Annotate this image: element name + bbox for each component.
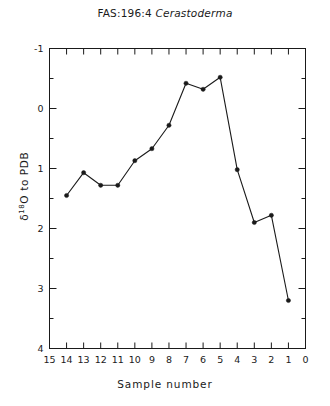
data-line-series [67,77,289,300]
data-point-marker [286,298,290,302]
x-tick-label: 3 [251,354,257,365]
x-axis-label: Sample number [0,378,330,390]
y-tick-label: 3 [37,283,43,294]
y-axis-ticks [50,49,306,349]
x-tick-label: 9 [149,354,155,365]
x-tick-label: 15 [43,354,55,365]
y-axis-label: δ18O to PDB [18,116,31,256]
x-tick-label: 11 [112,354,124,365]
data-point-marker [201,87,205,91]
data-point-markers [64,75,290,302]
data-point-marker [184,81,188,85]
plot-area: 1514131211109876543210 -101234 [0,0,330,406]
data-point-marker [82,171,86,175]
data-point-marker [252,220,256,224]
x-tick-label: 5 [217,354,223,365]
figure-container: FAS:196:4 Cerastoderma 15141312111098765… [0,0,330,406]
data-point-marker [116,183,120,187]
data-point-marker [99,183,103,187]
y-tick-label: -1 [34,43,43,54]
x-tick-label: 4 [234,354,240,365]
data-point-marker [150,147,154,151]
axes-frame [50,49,306,349]
x-axis-ticks [50,49,306,349]
data-point-marker [218,75,222,79]
y-axis-label-isotope: 18 [18,204,26,214]
data-point-marker [235,168,239,172]
x-tick-label: 2 [268,354,274,365]
x-tick-label: 8 [166,354,172,365]
y-tick-label: 4 [37,343,43,354]
y-tick-label: 2 [37,223,43,234]
x-axis-tick-labels: 1514131211109876543210 [43,354,308,365]
y-axis-label-rest: O to PDB [18,152,30,204]
x-tick-label: 10 [129,354,141,365]
y-tick-label: 1 [37,163,43,174]
x-tick-label: 6 [200,354,206,365]
data-point-marker [133,159,137,163]
y-axis-label-delta: δ [18,214,30,221]
y-axis-tick-labels: -101234 [34,43,43,354]
x-tick-label: 0 [302,354,308,365]
x-tick-label: 14 [61,354,73,365]
x-tick-label: 13 [78,354,90,365]
x-tick-label: 7 [183,354,189,365]
data-point-marker [167,123,171,127]
data-point-marker [269,213,273,217]
data-point-marker [64,193,68,197]
x-tick-label: 1 [285,354,291,365]
y-tick-label: 0 [37,103,43,114]
x-tick-label: 12 [95,354,107,365]
